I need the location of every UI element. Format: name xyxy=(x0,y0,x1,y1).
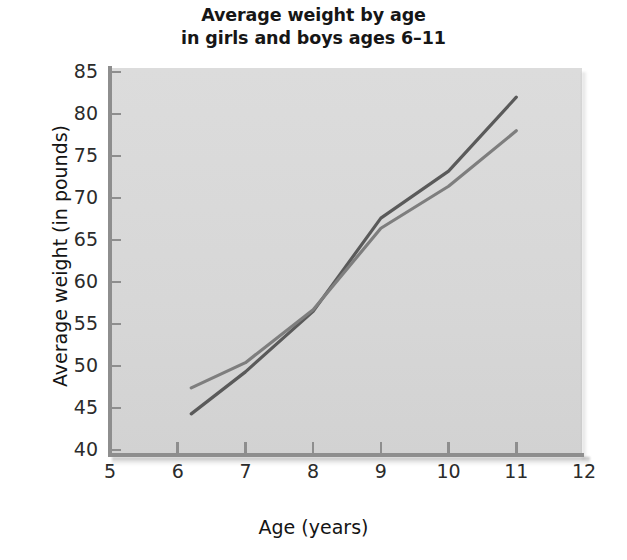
y-tick xyxy=(112,71,121,74)
plot-area xyxy=(108,68,582,455)
y-axis-spine xyxy=(108,66,112,457)
y-tick xyxy=(112,113,121,116)
x-tick-label: 9 xyxy=(356,462,406,481)
x-tick xyxy=(380,442,383,453)
y-tick xyxy=(112,323,121,326)
x-tick-label: 12 xyxy=(559,462,609,481)
x-tick-label: 6 xyxy=(153,462,203,481)
x-tick xyxy=(312,442,315,453)
x-tick-label: 10 xyxy=(424,462,474,481)
y-tick xyxy=(112,407,121,410)
x-axis-title: Age (years) xyxy=(0,516,627,538)
plot-shadow-right xyxy=(582,72,588,460)
y-tick xyxy=(112,365,121,368)
y-axis-title: Average weight (in pounds) xyxy=(49,56,71,456)
y-tick xyxy=(112,239,121,242)
x-tick xyxy=(447,442,450,453)
x-tick-label: 5 xyxy=(85,462,135,481)
x-tick-label: 7 xyxy=(220,462,270,481)
chart-figure: Average weight by age in girls and boys … xyxy=(0,0,627,560)
chart-title-line-1: Average weight by age xyxy=(0,4,627,27)
chart-title-line-2: in girls and boys ages 6–11 xyxy=(0,27,627,50)
y-tick xyxy=(112,281,121,284)
x-axis-spine xyxy=(108,453,584,457)
x-tick-label: 8 xyxy=(288,462,338,481)
plot-background xyxy=(108,68,582,455)
chart-title: Average weight by age in girls and boys … xyxy=(0,4,627,50)
y-tick xyxy=(112,449,121,452)
y-tick xyxy=(112,197,121,200)
x-tick xyxy=(515,442,518,453)
x-tick-label: 11 xyxy=(491,462,541,481)
y-tick xyxy=(112,155,121,158)
x-tick xyxy=(244,442,247,453)
x-tick xyxy=(176,442,179,453)
